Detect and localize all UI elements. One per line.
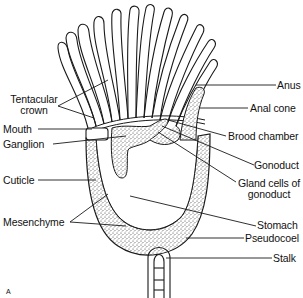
label-tentacular-crown: Tentacular crown [4,94,64,116]
diagram-canvas: Tentacular crown Mouth Ganglion Cuticle … [0,0,303,298]
label-brood-chamber: Brood chamber [228,131,299,142]
anal-cone [180,87,204,140]
label-mouth: Mouth [3,124,32,135]
entoproct-illustration [0,0,303,298]
label-stomach: Stomach [257,220,298,231]
label-ganglion: Ganglion [3,139,44,150]
label-tentacular-crown-line2: crown [4,105,64,116]
label-gonoduct: Gonoduct [254,160,299,171]
label-pseudocoel: Pseudocoel [245,233,299,244]
panel-letter: A [6,288,11,296]
label-gland-cells-of-gonoduct: Gland cells of gonoduct [236,178,302,200]
label-anal-cone: Anal cone [250,103,296,114]
label-cuticle: Cuticle [3,175,34,186]
label-mesenchyme: Mesenchyme [3,217,64,228]
label-anus: Anus [277,80,301,91]
label-stalk: Stalk [273,253,296,264]
label-gland-cells-line2: gonoduct [236,189,302,200]
